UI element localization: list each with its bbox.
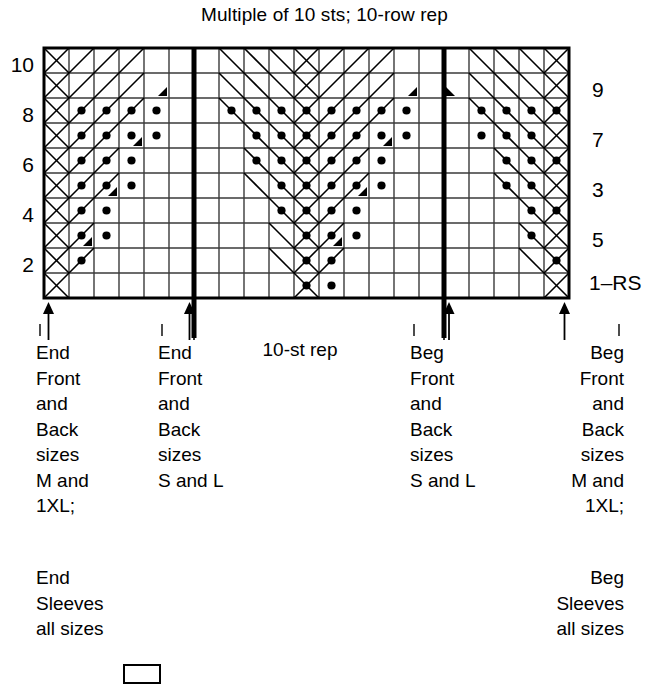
repeat-bracket	[194, 305, 444, 340]
arrow-head-0	[43, 302, 54, 314]
caption-beg-front-back-M-1XL: Beg Front and Back sizes M and 1XL;	[509, 340, 624, 519]
legend-swatch	[123, 664, 161, 684]
caption-end-front-back-M-1XL: End Front and Back sizes M and 1XL;	[36, 340, 156, 519]
repeat-label: 10-st rep	[200, 339, 400, 361]
stitch-chart-grid	[0, 0, 649, 340]
caption-end-front-back-S-L: End Front and Back sizes S and L	[158, 340, 278, 493]
caption-end-sleeves-all-sizes: End Sleeves all sizes	[36, 565, 166, 642]
arrow-head-3	[559, 302, 570, 314]
caption-beg-sleeves-all-sizes: Beg Sleeves all sizes	[499, 565, 624, 642]
